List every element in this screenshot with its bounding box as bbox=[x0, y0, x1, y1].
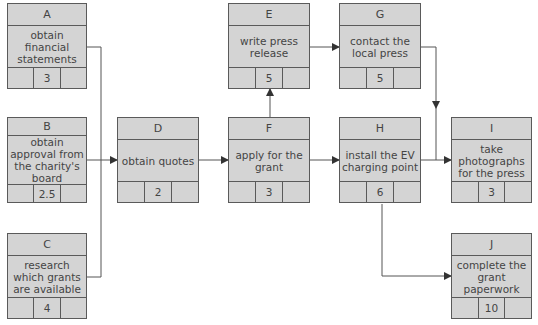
node-a: A obtain financial statements 3 bbox=[7, 3, 87, 89]
node-activity: take photographs for the press bbox=[452, 140, 531, 182]
earliest-start-cell bbox=[229, 182, 255, 202]
node-c: C research which grants are available 4 bbox=[7, 233, 87, 319]
node-id: F bbox=[229, 118, 309, 140]
node-i: I take photographs for the press 3 bbox=[451, 117, 532, 203]
earliest-start-cell bbox=[340, 182, 366, 202]
duration-cell: 5 bbox=[255, 68, 282, 88]
node-activity: install the EV charging point bbox=[340, 140, 420, 182]
earliest-start-cell bbox=[340, 68, 366, 88]
edge-a-d bbox=[87, 47, 101, 160]
float-cell bbox=[393, 182, 420, 202]
duration-cell: 6 bbox=[366, 182, 393, 202]
duration-cell: 2 bbox=[144, 182, 171, 202]
float-cell bbox=[60, 298, 86, 318]
node-activity: contact the local press bbox=[340, 26, 420, 68]
float-cell bbox=[282, 68, 309, 88]
node-id: J bbox=[452, 234, 531, 256]
node-id: A bbox=[8, 4, 86, 26]
edge-h-j bbox=[382, 204, 451, 276]
duration-cell: 5 bbox=[366, 68, 393, 88]
duration-cell: 4 bbox=[33, 298, 59, 318]
float-cell bbox=[60, 68, 86, 88]
node-e: E write press release 5 bbox=[228, 3, 310, 89]
node-activity: obtain financial statements bbox=[8, 26, 86, 68]
float-cell bbox=[60, 185, 86, 202]
node-id: B bbox=[8, 118, 86, 136]
earliest-start-cell bbox=[8, 68, 33, 88]
duration-cell: 3 bbox=[255, 182, 282, 202]
float-cell bbox=[504, 298, 531, 318]
earliest-start-cell bbox=[229, 68, 255, 88]
duration-cell: 3 bbox=[33, 68, 59, 88]
float-cell bbox=[171, 182, 198, 202]
duration-cell: 3 bbox=[478, 182, 505, 202]
edge-g-i bbox=[421, 47, 436, 108]
node-id: C bbox=[8, 234, 86, 256]
earliest-start-cell bbox=[452, 182, 478, 202]
earliest-start-cell bbox=[8, 185, 33, 202]
node-activity: obtain approval from the charity's board bbox=[8, 136, 86, 185]
node-activity: obtain quotes bbox=[118, 140, 198, 182]
earliest-start-cell bbox=[452, 298, 478, 318]
node-activity: research which grants are available bbox=[8, 256, 86, 298]
float-cell bbox=[504, 182, 531, 202]
node-id: G bbox=[340, 4, 420, 26]
node-activity: write press release bbox=[229, 26, 309, 68]
node-g: G contact the local press 5 bbox=[339, 3, 421, 89]
node-f: F apply for the grant 3 bbox=[228, 117, 310, 203]
earliest-start-cell bbox=[118, 182, 144, 202]
duration-cell: 10 bbox=[478, 298, 505, 318]
node-id: E bbox=[229, 4, 309, 26]
node-d: D obtain quotes 2 bbox=[117, 117, 199, 203]
edge-c-d bbox=[87, 160, 101, 277]
node-activity: complete the grant paperwork bbox=[452, 256, 531, 298]
node-b: B obtain approval from the charity's boa… bbox=[7, 117, 87, 203]
node-j: J complete the grant paperwork 10 bbox=[451, 233, 532, 319]
node-activity: apply for the grant bbox=[229, 140, 309, 182]
duration-cell: 2.5 bbox=[33, 185, 59, 202]
node-id: D bbox=[118, 118, 198, 140]
earliest-start-cell bbox=[8, 298, 33, 318]
node-id: I bbox=[452, 118, 531, 140]
node-h: H install the EV charging point 6 bbox=[339, 117, 421, 203]
node-id: H bbox=[340, 118, 420, 140]
float-cell bbox=[282, 182, 309, 202]
float-cell bbox=[393, 68, 420, 88]
